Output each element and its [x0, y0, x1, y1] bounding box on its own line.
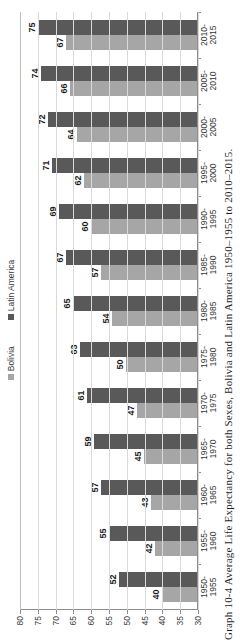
axis-tick — [109, 610, 110, 614]
gridline — [56, 12, 57, 610]
bar-value-label: 50 — [115, 360, 125, 370]
gridline — [109, 12, 110, 610]
figure-caption-strip: Graph 10-4 Average Life Expectancy for b… — [216, 0, 240, 640]
latin-america-swatch — [8, 314, 14, 320]
bar-latin-america: 74 — [41, 66, 197, 81]
axis-tick-label: 40 — [157, 616, 167, 625]
axis-tick — [198, 610, 199, 614]
bolivia-swatch — [8, 374, 14, 380]
axis-tick-label: 70 — [51, 616, 61, 625]
bar-latin-america: 72 — [48, 112, 197, 127]
axis-tick — [162, 610, 163, 614]
axis-tick-label: 75 — [33, 616, 43, 625]
gridline — [73, 12, 74, 610]
bar-latin-america: 52 — [119, 572, 197, 587]
bar-bolivia: 45 — [144, 449, 197, 464]
bar-latin-america: 75 — [38, 20, 197, 35]
bar-bolivia: 57 — [101, 265, 197, 280]
bar-bolivia: 54 — [112, 311, 197, 326]
axis-tick — [145, 610, 146, 614]
axis-tick-label: 30 — [193, 616, 203, 625]
axis-tick-label: 50 — [122, 616, 132, 625]
axis-tick-label: 80 — [15, 616, 25, 625]
figure-caption: Graph 10-4 Average Life Expectancy for b… — [222, 149, 234, 640]
axis-tick — [127, 610, 128, 614]
gridline — [20, 12, 21, 610]
axis-tick-label: 35 — [175, 616, 185, 625]
bar-latin-america: 55 — [109, 526, 198, 541]
figure-page: Bolivia Latin America 807570656055504540… — [0, 0, 240, 640]
axis-tick — [38, 610, 39, 614]
bar-latin-america: 67 — [66, 250, 197, 265]
bar-value-label: 40 — [151, 590, 161, 600]
bar-value-label: 65 — [62, 298, 72, 308]
bar-value-label: 72 — [37, 114, 47, 124]
gridline — [145, 12, 146, 610]
axis-tick-label: 45 — [140, 616, 150, 625]
plot-area: 4052425543574559476150635465576760696271… — [20, 12, 198, 610]
gridline — [38, 12, 39, 610]
bar-latin-america: 69 — [59, 204, 197, 219]
legend-label-bolivia: Bolivia — [6, 346, 16, 371]
gridline — [180, 12, 181, 610]
axis-tick — [20, 610, 21, 614]
legend-item-latin-america: Latin America — [6, 260, 16, 321]
bar-value-label: 55 — [98, 528, 108, 538]
bar-bolivia: 42 — [155, 541, 197, 556]
bar-bolivia: 47 — [137, 403, 197, 418]
bar-value-label: 71 — [41, 160, 51, 170]
axis-tick — [73, 610, 74, 614]
bar-bolivia: 64 — [77, 127, 197, 142]
axis-tick-label: 65 — [68, 616, 78, 625]
gridline — [127, 12, 128, 610]
gridline — [162, 12, 163, 610]
bar-value-label: 61 — [76, 390, 86, 400]
axis-tick-label: 55 — [104, 616, 114, 625]
bar-bolivia: 43 — [151, 495, 197, 510]
legend-item-bolivia: Bolivia — [6, 346, 16, 380]
value-axis: 8075706560555045403530 — [20, 609, 198, 640]
axis-tick — [56, 610, 57, 614]
axis-tick — [91, 610, 92, 614]
bar-value-label: 75 — [27, 22, 37, 32]
bar-bolivia: 66 — [70, 81, 197, 96]
bar-value-label: 66 — [59, 84, 69, 94]
plot-frame: 4052425543574559476150635465576760696271… — [20, 12, 198, 610]
chart-legend: Bolivia Latin America — [2, 0, 20, 640]
gridline — [91, 12, 92, 610]
legend-label-latin-america: Latin America — [6, 260, 16, 312]
bar-bolivia: 67 — [66, 35, 197, 50]
bar-value-label: 45 — [133, 452, 143, 462]
axis-tick — [180, 610, 181, 614]
bar-latin-america: 57 — [101, 480, 197, 495]
axis-tick-label: 60 — [86, 616, 96, 625]
bar-value-label: 60 — [80, 222, 90, 232]
chart-figure: Bolivia Latin America 807570656055504540… — [0, 0, 240, 640]
